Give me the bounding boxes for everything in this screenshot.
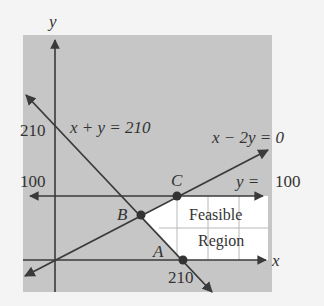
feasible-region-label-line2: Region bbox=[198, 232, 244, 250]
label-x-plus-y: x + y = 210 bbox=[69, 118, 151, 137]
label-x-minus-2y: x − 2y = 0 bbox=[211, 128, 285, 147]
x-axis-label: x bbox=[271, 251, 280, 270]
label-point-b: B bbox=[117, 205, 128, 224]
label-y-eq-100-lhs: y = bbox=[234, 172, 259, 191]
label-y-eq-100-rhs: 100 bbox=[275, 172, 301, 191]
y-tick-210: 210 bbox=[20, 121, 46, 140]
linear-programming-diagram: y x 210 100 210 x + y = 210 x − 2y = 0 y… bbox=[0, 0, 324, 306]
label-point-a: A bbox=[152, 242, 164, 261]
point-c bbox=[173, 192, 182, 201]
label-point-c: C bbox=[171, 171, 183, 190]
feasible-region-label-line1: Feasible bbox=[189, 206, 242, 223]
point-a bbox=[179, 256, 188, 265]
point-b bbox=[137, 211, 146, 220]
x-tick-210: 210 bbox=[168, 268, 194, 287]
y-tick-100: 100 bbox=[20, 172, 46, 191]
y-axis-label: y bbox=[47, 12, 57, 31]
